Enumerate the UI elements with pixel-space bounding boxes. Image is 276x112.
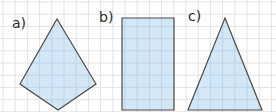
label-c: c): [188, 9, 201, 23]
label-a: a): [12, 16, 26, 30]
label-b: b): [99, 10, 113, 24]
shapes-diagram: [0, 0, 276, 112]
rectangle-fill: [122, 18, 174, 110]
isosceles-triangle-fill: [188, 18, 262, 110]
